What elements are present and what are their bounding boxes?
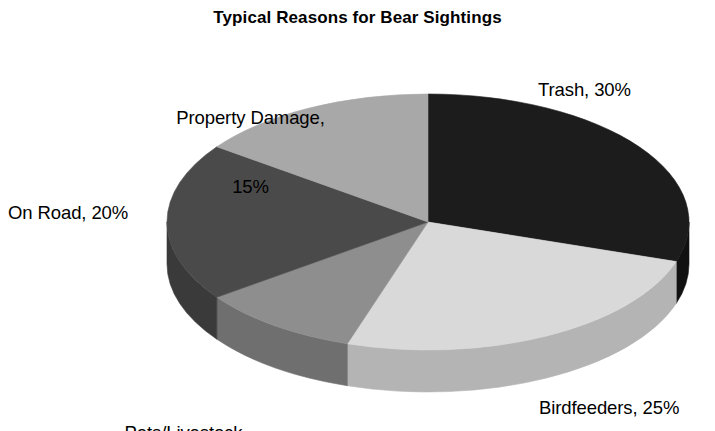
slice-label-birdfeeders: Birdfeeders, 25% — [539, 396, 679, 419]
slice-label-property-damage-line2: 15% — [148, 175, 353, 198]
pie-chart: Typical Reasons for Bear Sightings Prope… — [0, 0, 715, 431]
slice-label-on-road: On Road, 20% — [8, 201, 128, 224]
slice-label-property-damage-line1: Property Damage, — [148, 106, 353, 129]
slice-label-pets-livestock-line1: Pets/Livestock, — [72, 421, 300, 431]
slice-label-pets-livestock: Pets/Livestock, 10% — [72, 375, 300, 431]
slice-label-trash: Trash, 30% — [538, 78, 631, 101]
slice-label-property-damage: Property Damage, 15% — [148, 60, 353, 244]
